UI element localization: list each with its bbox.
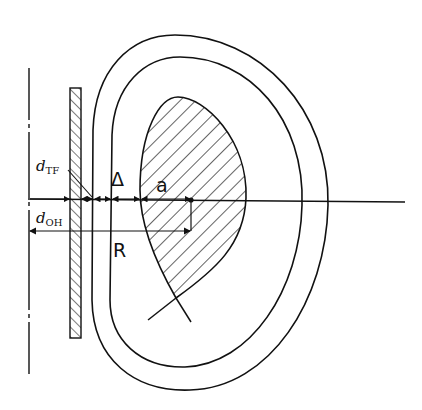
tokamak-radial-build-diagram: dTF dOH Δ a R — [0, 0, 422, 410]
separatrix-leg-left — [148, 298, 176, 320]
label-R: R — [113, 239, 126, 261]
label-a: a — [156, 174, 168, 196]
label-delta: Δ — [111, 168, 124, 190]
label-d-oh: dOH — [36, 209, 63, 228]
plasma — [140, 97, 246, 298]
oh-solenoid — [70, 88, 81, 338]
label-d-tf: dTF — [36, 157, 59, 176]
separatrix-leg-right — [176, 298, 191, 322]
